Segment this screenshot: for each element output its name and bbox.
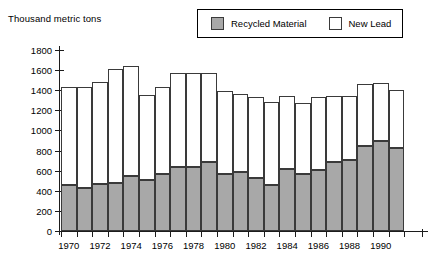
x-tick-1973 <box>108 231 109 237</box>
bar-1973[interactable] <box>108 69 124 231</box>
x-tick-1985 <box>295 231 296 237</box>
x-tick-1981 <box>233 231 234 237</box>
bar-segment-new-lead-1981 <box>233 94 249 171</box>
bar-segment-new-lead-1989 <box>357 84 373 146</box>
x-tick-1980 <box>217 231 218 237</box>
bar-segment-new-lead-1984 <box>279 96 295 168</box>
bar-segment-new-lead-1982 <box>248 97 264 177</box>
bar-segment-recycled-1971 <box>77 188 93 231</box>
x-label-1978: 1978 <box>183 240 204 251</box>
bar-segment-recycled-1991 <box>389 148 405 231</box>
x-tick-1978 <box>186 231 187 237</box>
x-tick-1976 <box>155 231 156 237</box>
bar-segment-new-lead-1977 <box>170 73 186 168</box>
x-label-1980: 1980 <box>214 240 235 251</box>
bar-segment-recycled-1978 <box>186 167 202 231</box>
bar-segment-recycled-1985 <box>295 174 311 231</box>
bar-segment-recycled-1976 <box>155 174 171 231</box>
y-label-800: 800 <box>36 145 52 156</box>
bar-segment-new-lead-1970 <box>61 87 77 185</box>
bar-1975[interactable] <box>139 95 155 231</box>
bar-segment-recycled-1977 <box>170 167 186 231</box>
x-tick-1990 <box>373 231 374 237</box>
bar-segment-new-lead-1990 <box>373 83 389 141</box>
bar-segment-recycled-1981 <box>233 172 249 231</box>
legend-item-recycled-material[interactable]: Recycled Material <box>211 17 307 30</box>
bar-segment-recycled-1983 <box>264 185 280 231</box>
bar-1991[interactable] <box>389 90 405 231</box>
legend-label-new-lead: New Lead <box>349 18 392 29</box>
bar-1978[interactable] <box>186 73 202 231</box>
x-tick-1986 <box>311 231 312 237</box>
bar-1971[interactable] <box>77 87 93 231</box>
bar-1985[interactable] <box>295 103 311 231</box>
bar-segment-new-lead-1978 <box>186 73 202 167</box>
x-label-1986: 1986 <box>308 240 329 251</box>
bar-1987[interactable] <box>326 96 342 231</box>
bar-segment-recycled-1973 <box>108 183 124 231</box>
x-tick-1982 <box>248 231 249 237</box>
bar-1976[interactable] <box>155 87 171 231</box>
x-tick-1972 <box>92 231 93 237</box>
x-tick-1975 <box>139 231 140 237</box>
x-label-1974: 1974 <box>121 240 142 251</box>
y-label-1000: 1000 <box>31 125 52 136</box>
y-label-400: 400 <box>36 185 52 196</box>
bar-segment-new-lead-1973 <box>108 69 124 183</box>
bar-segment-new-lead-1987 <box>326 96 342 162</box>
x-label-1984: 1984 <box>277 240 298 251</box>
bar-segment-new-lead-1979 <box>201 73 217 162</box>
bar-1984[interactable] <box>279 96 295 231</box>
x-label-1982: 1982 <box>245 240 266 251</box>
x-tick-1983 <box>264 231 265 237</box>
x-axis-end-cap <box>422 229 423 237</box>
bar-1972[interactable] <box>92 82 108 231</box>
bar-segment-recycled-1989 <box>357 146 373 231</box>
bar-segment-new-lead-1976 <box>155 87 171 174</box>
recycled-swatch-icon <box>211 17 224 30</box>
y-label-1200: 1200 <box>31 105 52 116</box>
y-axis-title: Thousand metric tons <box>8 13 101 24</box>
x-tick-1988 <box>342 231 343 237</box>
plot-area: 1970197219741976197819801982198419861988… <box>59 50 428 231</box>
bar-1977[interactable] <box>170 73 186 231</box>
bar-1979[interactable] <box>201 73 217 231</box>
bar-1982[interactable] <box>248 97 264 231</box>
y-label-1400: 1400 <box>31 85 52 96</box>
bar-segment-new-lead-1985 <box>295 103 311 174</box>
x-tick-1991 <box>389 231 390 237</box>
bar-segment-new-lead-1991 <box>389 90 405 147</box>
x-tick-1989 <box>357 231 358 237</box>
legend-item-new-lead[interactable]: New Lead <box>329 17 392 30</box>
new-lead-swatch-icon <box>329 17 342 30</box>
bar-1989[interactable] <box>357 84 373 231</box>
y-label-1800: 1800 <box>31 45 52 56</box>
x-tick-1974 <box>123 231 124 237</box>
x-tick-1977 <box>170 231 171 237</box>
bar-segment-recycled-1970 <box>61 185 77 231</box>
bar-segment-new-lead-1988 <box>342 96 358 160</box>
bar-1981[interactable] <box>233 94 249 231</box>
bar-1970[interactable] <box>61 87 77 231</box>
bar-segment-new-lead-1980 <box>217 91 233 174</box>
x-label-1988: 1988 <box>339 240 360 251</box>
bar-segment-recycled-1972 <box>92 184 108 231</box>
bar-1974[interactable] <box>123 66 139 231</box>
bar-segment-recycled-1982 <box>248 178 264 231</box>
bar-1980[interactable] <box>217 91 233 231</box>
bar-1986[interactable] <box>311 97 327 231</box>
bar-1983[interactable] <box>264 102 280 231</box>
y-tick-0 <box>55 231 64 232</box>
chart-legend: Recycled Material New Lead <box>197 9 403 38</box>
bar-segment-recycled-1975 <box>139 180 155 231</box>
x-tick-1971 <box>77 231 78 237</box>
x-label-1972: 1972 <box>89 240 110 251</box>
bar-1988[interactable] <box>342 96 358 231</box>
y-label-0: 0 <box>47 226 52 237</box>
bar-segment-recycled-1986 <box>311 170 327 231</box>
bar-segment-recycled-1974 <box>123 176 139 231</box>
bar-1990[interactable] <box>373 83 389 231</box>
x-tick-1979 <box>201 231 202 237</box>
x-tick-1987 <box>326 231 327 237</box>
x-tick-1984 <box>279 231 280 237</box>
